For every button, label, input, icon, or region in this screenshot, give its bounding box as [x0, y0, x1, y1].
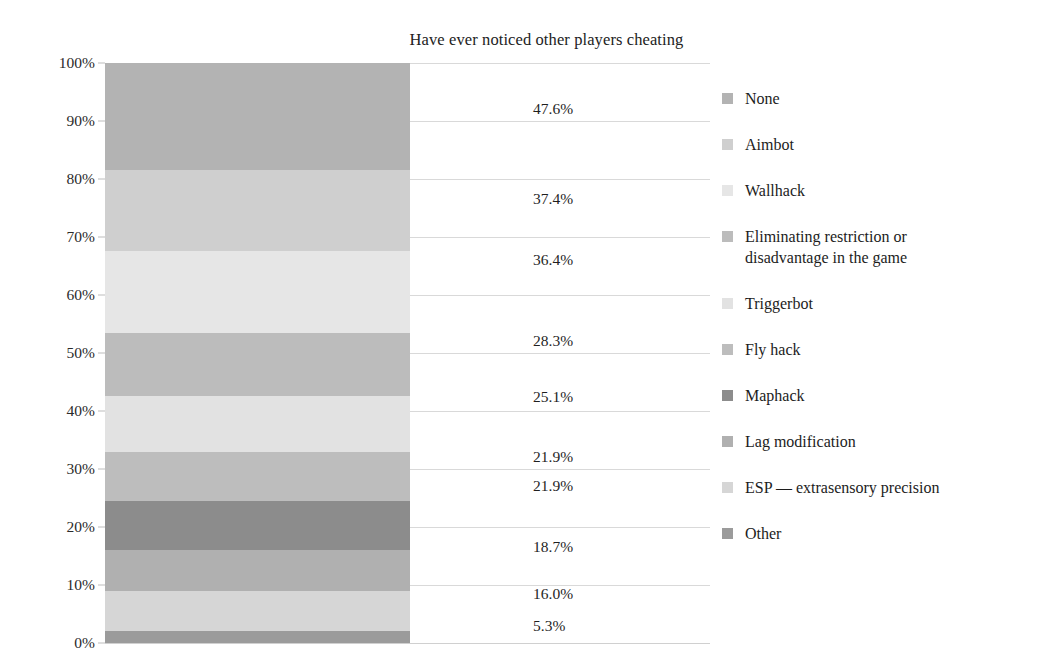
y-axis-tick-mark	[98, 585, 105, 586]
legend-swatch-icon	[722, 344, 733, 355]
bar-segment[interactable]	[105, 396, 410, 451]
legend-item-label: Other	[745, 523, 781, 544]
legend-swatch-icon	[722, 390, 733, 401]
legend-item-label: Fly hack	[745, 339, 801, 360]
legend-item-label: Maphack	[745, 385, 805, 406]
y-axis-tick-mark	[98, 353, 105, 354]
legend-item[interactable]: Other	[722, 523, 1063, 544]
bar-segment[interactable]	[105, 170, 410, 251]
bar-segment[interactable]	[105, 251, 410, 332]
y-axis-tick-label: 80%	[67, 170, 95, 188]
y-axis-tick-mark	[98, 411, 105, 412]
legend-item[interactable]: ESP — extrasensory precision	[722, 477, 1063, 498]
y-axis-tick-mark	[98, 643, 105, 644]
bar-segment[interactable]	[105, 591, 410, 632]
y-axis-tick-mark	[98, 295, 105, 296]
y-axis-tick-mark	[98, 63, 105, 64]
y-axis-tick-label: 100%	[59, 54, 95, 72]
legend-item[interactable]: Maphack	[722, 385, 1063, 406]
legend-item[interactable]: Fly hack	[722, 339, 1063, 360]
y-axis-tick-label: 40%	[67, 402, 95, 420]
y-axis-tick-label: 70%	[67, 228, 95, 246]
legend-swatch-icon	[722, 528, 733, 539]
legend-swatch-icon	[722, 298, 733, 309]
legend-item-label: Lag modification	[745, 431, 856, 452]
legend-item[interactable]: Triggerbot	[722, 293, 1063, 314]
legend-swatch-icon	[722, 482, 733, 493]
y-axis-tick-label: 10%	[67, 576, 95, 594]
legend-item-label: Triggerbot	[745, 293, 813, 314]
legend-item-label: Wallhack	[745, 180, 805, 201]
legend-swatch-icon	[722, 185, 733, 196]
legend-item[interactable]: Aimbot	[722, 134, 1063, 155]
y-axis-tick-mark	[98, 527, 105, 528]
legend-item[interactable]: None	[722, 88, 1063, 109]
y-axis-tick-label: 20%	[67, 518, 95, 536]
bar-segment[interactable]	[105, 631, 410, 643]
y-axis-tick-label: 0%	[74, 634, 95, 652]
bar-segment[interactable]	[105, 63, 410, 170]
chart-title: Have ever noticed other players cheating	[0, 30, 1063, 50]
y-axis-tick-mark	[98, 469, 105, 470]
bar-segment[interactable]	[105, 452, 410, 501]
legend-item[interactable]: Lag modification	[722, 431, 1063, 452]
plot-area	[105, 63, 710, 643]
legend-item-label: Eliminating restriction or disadvantage …	[745, 226, 907, 268]
gridline	[105, 643, 710, 644]
bar-segment[interactable]	[105, 550, 410, 591]
y-axis-tick-label: 90%	[67, 112, 95, 130]
y-axis-tick-mark	[98, 179, 105, 180]
chart-container: Have ever noticed other players cheating…	[0, 0, 1063, 658]
chart-legend: NoneAimbotWallhackEliminating restrictio…	[722, 88, 1063, 569]
legend-swatch-icon	[722, 231, 733, 242]
legend-swatch-icon	[722, 93, 733, 104]
y-axis-tick-label: 50%	[67, 344, 95, 362]
legend-item-label: Aimbot	[745, 134, 794, 155]
y-axis-tick-label: 60%	[67, 286, 95, 304]
bar-segment[interactable]	[105, 501, 410, 550]
legend-item[interactable]: Wallhack	[722, 180, 1063, 201]
legend-item-label: None	[745, 88, 780, 109]
legend-swatch-icon	[722, 139, 733, 150]
y-axis-tick-label: 30%	[67, 460, 95, 478]
y-axis-tick-mark	[98, 121, 105, 122]
bar-segment[interactable]	[105, 333, 410, 397]
y-axis: 0%10%20%30%40%50%60%70%80%90%100%	[0, 63, 105, 643]
y-axis-tick-mark	[98, 237, 105, 238]
legend-item-label: ESP — extrasensory precision	[745, 477, 939, 498]
legend-swatch-icon	[722, 436, 733, 447]
legend-item[interactable]: Eliminating restriction or disadvantage …	[722, 226, 1063, 268]
stacked-bar	[105, 63, 410, 643]
